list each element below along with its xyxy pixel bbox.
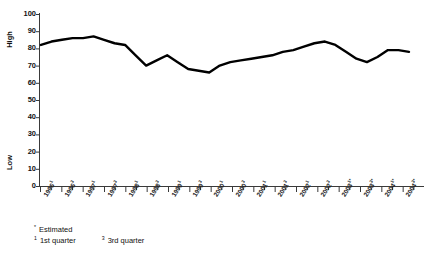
y-axis-tick-label: 40 — [18, 113, 36, 121]
footnote-estimated-text: Estimated — [39, 225, 72, 234]
footnote-q1-text: 1st quarter — [40, 236, 76, 245]
data-series-line — [41, 36, 409, 72]
y-axis-tick-label: 60 — [18, 79, 36, 87]
y-axis-low-label: Low — [5, 151, 14, 175]
y-axis-tick-label: 20 — [18, 148, 36, 156]
footnotes: *Estimated 11st quarter33rd quarter — [34, 224, 144, 246]
footnote-quarters: 11st quarter33rd quarter — [34, 235, 144, 246]
y-axis-tick-label: 100 — [18, 10, 36, 18]
y-axis-tick-label: 50 — [18, 96, 36, 104]
y-axis-high-label: High — [5, 28, 14, 52]
axes — [36, 13, 424, 192]
y-axis-tick-label: 30 — [18, 130, 36, 138]
y-axis-tick-label: 90 — [18, 27, 36, 35]
footnote-estimated-marker: * — [34, 224, 36, 230]
footnote-q3-marker: 3 — [102, 235, 105, 241]
footnote-estimated: *Estimated — [34, 224, 144, 235]
y-axis-tick-label: 0 — [18, 182, 36, 190]
footnote-q1-marker: 1 — [34, 235, 37, 241]
y-axis-tick-label: 10 — [18, 165, 36, 173]
footnote-q3-text: 3rd quarter — [108, 236, 145, 245]
y-axis-tick-label: 80 — [18, 44, 36, 52]
y-axis-tick-label: 70 — [18, 62, 36, 70]
plot-area — [0, 0, 432, 256]
line-chart: High Low 1009080706050403020100 19961199… — [0, 0, 432, 256]
